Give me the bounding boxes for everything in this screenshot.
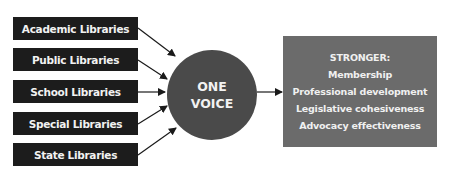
result-item: Advocacy effectiveness [299, 117, 420, 134]
result-box: STRONGER: Membership Professional develo… [283, 36, 437, 147]
input-box-public-libraries: Public Libraries [13, 48, 138, 71]
arrow-special [138, 106, 167, 124]
center-line-1: ONE [197, 78, 227, 95]
result-item: Legislative cohesiveness [296, 100, 424, 117]
input-label: Academic Libraries [22, 23, 129, 35]
input-box-school-libraries: School Libraries [13, 80, 138, 103]
arrow-state [138, 128, 176, 155]
result-heading: STRONGER: [330, 49, 390, 66]
input-box-academic-libraries: Academic Libraries [13, 17, 138, 40]
input-label: State Libraries [34, 149, 117, 161]
input-box-special-libraries: Special Libraries [13, 112, 138, 135]
result-item: Membership [328, 66, 392, 83]
one-voice-circle: ONE VOICE [167, 50, 257, 140]
result-item: Professional development [293, 83, 428, 100]
input-label: Public Libraries [32, 54, 119, 66]
input-box-state-libraries: State Libraries [13, 143, 138, 166]
input-label: Special Libraries [29, 118, 122, 130]
input-label: School Libraries [30, 86, 120, 98]
arrow-public [138, 60, 167, 79]
center-line-2: VOICE [191, 95, 233, 112]
arrow-academic [138, 28, 175, 56]
